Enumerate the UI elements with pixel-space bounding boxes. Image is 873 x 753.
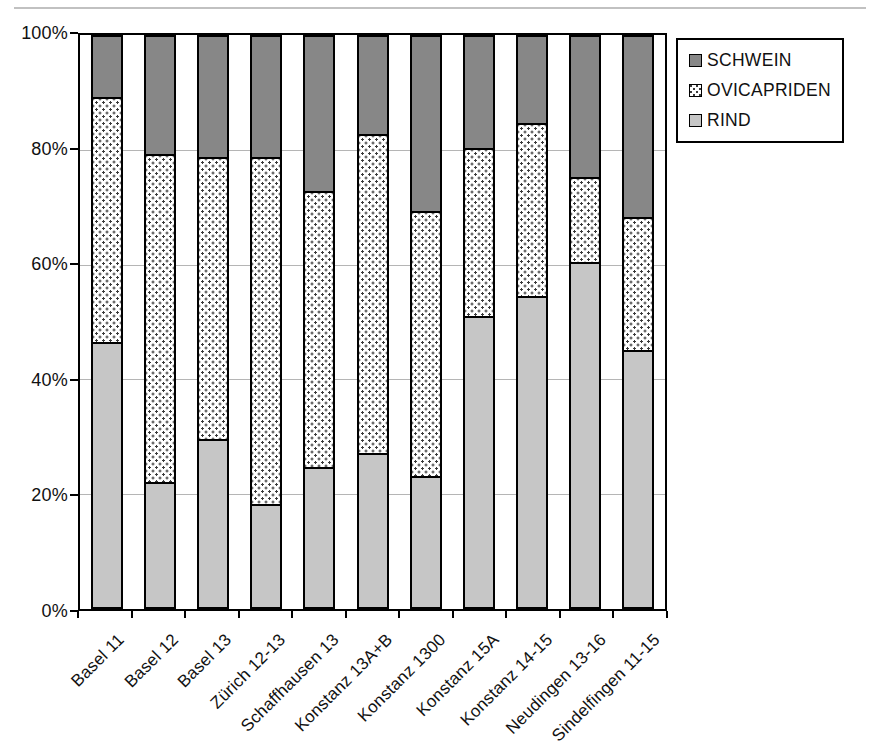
legend-label: RIND xyxy=(707,110,751,131)
bar-segment-rind xyxy=(305,467,333,607)
x-axis-label: Konstanz 14-15 xyxy=(457,630,557,730)
y-tick-label: 80% xyxy=(0,138,68,160)
legend-item-rind: RIND xyxy=(689,110,836,131)
bar-segment-schwein xyxy=(359,37,387,134)
bar-segment-schwein xyxy=(412,37,440,211)
bar-z-rich-12-13 xyxy=(250,35,282,609)
bar-segment-rind xyxy=(465,316,493,607)
x-tick-mark xyxy=(131,611,133,618)
bar-segment-ovicapriden xyxy=(93,97,121,342)
bar-segment-ovicapriden xyxy=(305,191,333,467)
legend-label: SCHWEIN xyxy=(707,50,792,71)
bar-konstanz-1300 xyxy=(410,35,442,609)
bar-segment-schwein xyxy=(571,37,599,177)
bar-segment-ovicapriden xyxy=(412,211,440,476)
x-tick-mark xyxy=(184,611,186,618)
x-tick-mark xyxy=(345,611,347,618)
x-tick-mark xyxy=(452,611,454,618)
bar-segment-schwein xyxy=(305,37,333,191)
y-tick-label: 20% xyxy=(0,484,68,506)
x-tick-mark xyxy=(505,611,507,618)
bar-konstanz-15a xyxy=(463,35,495,609)
bar-segment-schwein xyxy=(624,37,652,217)
legend-swatch-rind xyxy=(689,114,702,127)
y-tick-mark xyxy=(70,263,78,265)
y-tick-mark xyxy=(70,379,78,381)
bar-basel-12 xyxy=(144,35,176,609)
x-tick-mark xyxy=(238,611,240,618)
chart-canvas: 0%20%40%60%80%100% Basel 11Basel 12Basel… xyxy=(0,0,873,753)
bar-segment-schwein xyxy=(252,37,280,157)
bar-segment-ovicapriden xyxy=(359,134,387,453)
bar-segment-rind xyxy=(571,262,599,607)
bar-konstanz-13a-b xyxy=(357,35,389,609)
bar-segment-rind xyxy=(624,350,652,607)
bar-schaffhausen-13 xyxy=(303,35,335,609)
bar-segment-rind xyxy=(199,439,227,607)
y-tick-mark xyxy=(70,32,78,34)
x-axis-label: Basel 11 xyxy=(68,630,129,691)
legend-label: OVICAPRIDEN xyxy=(707,80,831,101)
plot-area xyxy=(78,33,667,611)
bar-neudingen-13-16 xyxy=(569,35,601,609)
x-axis-label: Konstanz 13A+B xyxy=(291,630,397,736)
bar-segment-rind xyxy=(252,504,280,607)
bar-segment-ovicapriden xyxy=(199,157,227,439)
bar-segment-ovicapriden xyxy=(465,148,493,316)
legend-item-ovicapriden: OVICAPRIDEN xyxy=(689,80,836,101)
legend-box: SCHWEINOVICAPRIDENRIND xyxy=(676,38,844,143)
bar-segment-rind xyxy=(412,476,440,607)
bar-segment-rind xyxy=(518,296,546,607)
x-tick-mark xyxy=(612,611,614,618)
bar-basel-11 xyxy=(91,35,123,609)
bar-segment-ovicapriden xyxy=(252,157,280,505)
scan-artifact-line xyxy=(14,7,866,9)
legend-swatch-schwein xyxy=(689,54,702,67)
bar-segment-rind xyxy=(146,482,174,607)
bar-segment-schwein xyxy=(465,37,493,148)
y-tick-label: 40% xyxy=(0,369,68,391)
x-tick-mark xyxy=(77,611,79,618)
bar-konstanz-14-15 xyxy=(516,35,548,609)
x-axis-label: Schaffhausen 13 xyxy=(237,630,343,736)
legend-item-schwein: SCHWEIN xyxy=(689,50,836,71)
y-tick-mark xyxy=(70,494,78,496)
bar-segment-ovicapriden xyxy=(624,217,652,351)
y-tick-label: 0% xyxy=(0,600,68,622)
bar-segment-ovicapriden xyxy=(518,123,546,297)
bar-sindelfingen-11-15 xyxy=(622,35,654,609)
bar-basel-13 xyxy=(197,35,229,609)
x-tick-mark xyxy=(398,611,400,618)
bar-segment-schwein xyxy=(199,37,227,157)
legend-swatch-ovicapriden xyxy=(689,84,702,97)
bar-segment-schwein xyxy=(93,37,121,97)
bar-segment-schwein xyxy=(146,37,174,154)
bar-segment-ovicapriden xyxy=(571,177,599,263)
bar-segment-rind xyxy=(93,342,121,607)
bar-segment-schwein xyxy=(518,37,546,123)
y-tick-label: 100% xyxy=(0,22,68,44)
bar-segment-rind xyxy=(359,453,387,607)
x-tick-mark xyxy=(666,611,668,618)
y-tick-label: 60% xyxy=(0,253,68,275)
x-tick-mark xyxy=(291,611,293,618)
y-tick-mark xyxy=(70,148,78,150)
bar-segment-ovicapriden xyxy=(146,154,174,482)
x-tick-mark xyxy=(559,611,561,618)
x-axis-label: Basel 12 xyxy=(120,630,182,692)
